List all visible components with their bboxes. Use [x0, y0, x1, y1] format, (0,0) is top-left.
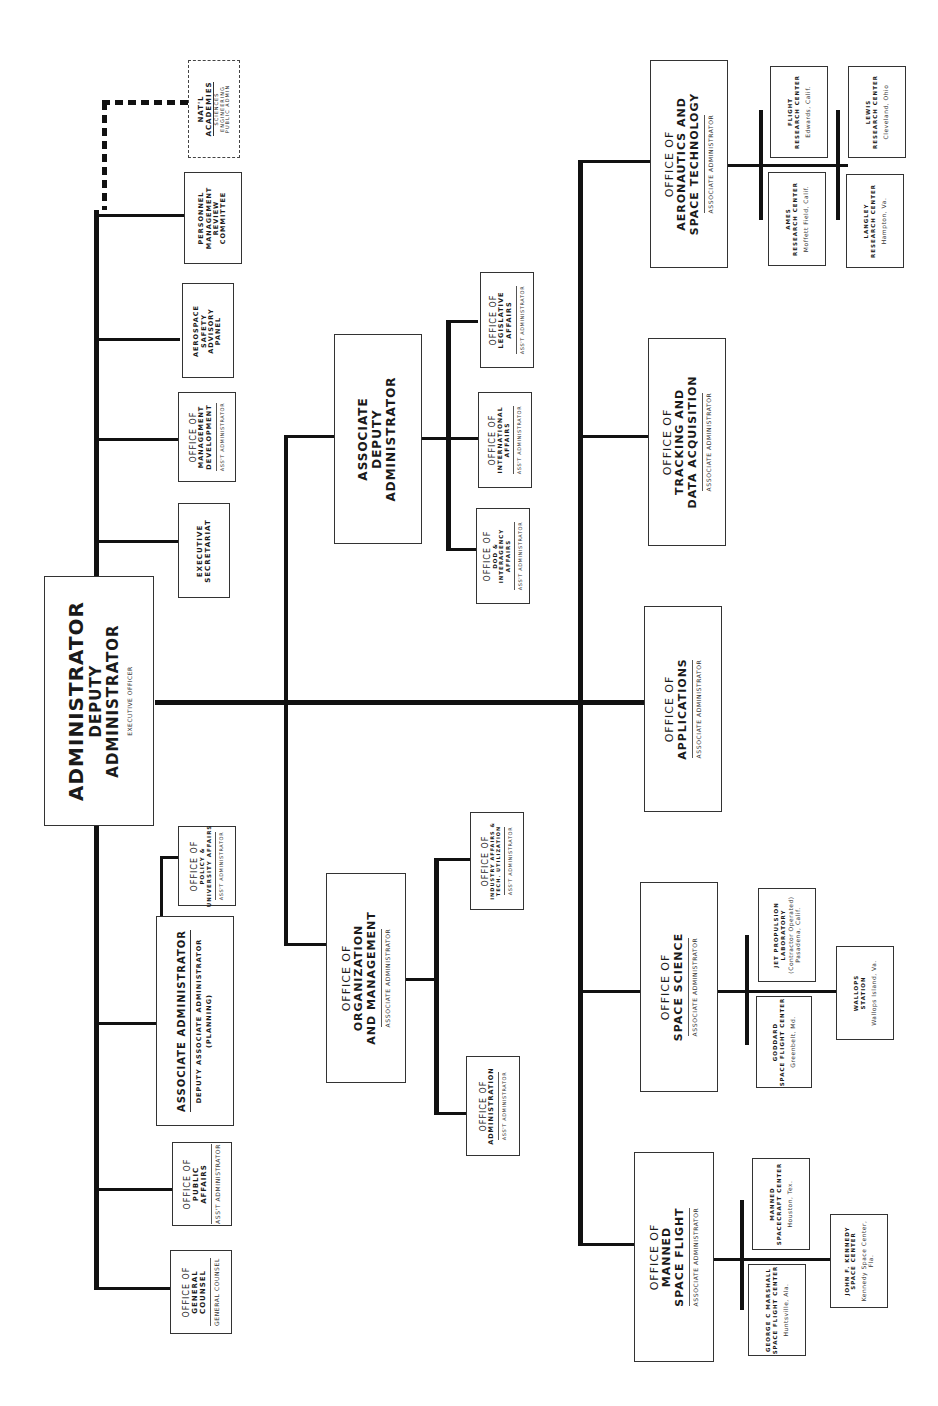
- god-l2: SPACE FLIGHT CENTER: [779, 998, 785, 1087]
- om-l3: AND MANAGEMENT: [366, 911, 379, 1045]
- branch-policy-h: [160, 856, 178, 859]
- node-aerospace-safety[interactable]: AEROSPACE SAFETY ADVISORY PANEL: [182, 283, 234, 378]
- aer-l3: SPACE TECHNOLOGY: [689, 93, 702, 235]
- node-wallops[interactable]: WALLOPS STATION Wallops Island, Va.: [836, 946, 894, 1040]
- node-associate-administrator[interactable]: ASSOCIATE ADMINISTRATOR DEPUTY ASSOCIATE…: [156, 916, 234, 1126]
- pa-l2: PUBLIC: [192, 1167, 200, 1201]
- aa-l2: DEPUTY ASSOCIATE ADMINISTRATOR: [196, 939, 203, 1104]
- node-kennedy[interactable]: JOHN F. KENNEDY SPACE CENTER Kennedy Spa…: [830, 1214, 888, 1308]
- node-administrator[interactable]: ADMINISTRATOR DEPUTY ADMINISTRATOR EXECU…: [44, 576, 154, 826]
- es-l1: EXECUTIVE: [196, 524, 204, 576]
- ken-l2: SPACE CENTER: [850, 1232, 856, 1290]
- om-l2: ORGANIZATION: [353, 925, 366, 1031]
- node-applications[interactable]: OFFICE OF APPLICATIONS ASSOCIATE ADMINIS…: [644, 606, 722, 812]
- node-industry-affairs[interactable]: OFFICE OF INDUSTRY AFFAIRS & TECH. UTILI…: [470, 812, 524, 910]
- aa-l1: ASSOCIATE ADMINISTRATOR: [176, 930, 191, 1112]
- pa-l1: OFFICE OF: [183, 1159, 192, 1210]
- dod-l4: AFFAIRS: [505, 540, 511, 573]
- node-langley[interactable]: LANGLEY RESEARCH CENTER Hampton, Va.: [846, 174, 904, 268]
- frc-l2: RESEARCH CENTER: [794, 75, 800, 149]
- ames-loc: Moffett Field, Calif.: [802, 186, 809, 252]
- org-chart: ADMINISTRATOR DEPUTY ADMINISTRATOR EXECU…: [0, 0, 938, 1406]
- node-space-science[interactable]: OFFICE OF SPACE SCIENCE ASSOCIATE ADMINI…: [640, 882, 718, 1092]
- node-manned-space-flight[interactable]: OFFICE OF MANNED SPACE FLIGHT ASSOCIATE …: [634, 1152, 714, 1362]
- node-general-counsel[interactable]: OFFICE OF GENERAL COUNSEL GENERAL COUNSE…: [170, 1250, 232, 1334]
- msf-sub: ASSOCIATE ADMINISTRATOR: [689, 1208, 699, 1307]
- mar-l2: SPACE FLIGHT CENTER: [772, 1266, 778, 1355]
- app-sub: ASSOCIATE ADMINISTRATOR: [692, 660, 702, 759]
- trk-l2: TRACKING AND: [674, 389, 687, 495]
- lan-l2: RESEARCH CENTER: [870, 184, 876, 258]
- admin-deputy-2: ADMINISTRATOR: [105, 624, 122, 777]
- msc-l2: SPACECRAFT CENTER: [776, 1163, 782, 1246]
- ia-sub: ASS'T ADMINISTRATOR: [513, 406, 522, 474]
- node-aeronautics[interactable]: OFFICE OF AERONAUTICS AND SPACE TECHNOLO…: [650, 60, 728, 268]
- jpl-loc: (Contractor Operated): [787, 896, 794, 973]
- md-l3: DEVELOPMENT: [206, 404, 213, 469]
- gc-l2: GENERAL: [191, 1270, 199, 1313]
- node-marshall[interactable]: GEORGE C MARSHALL SPACE FLIGHT CENTER Hu…: [748, 1264, 806, 1356]
- node-administration[interactable]: OFFICE OF ADMINISTRATION ASS'T ADMINISTR…: [466, 1056, 520, 1156]
- msc-loc: Houston, Tex.: [786, 1181, 793, 1228]
- msf-spine: [740, 1200, 744, 1310]
- ss-l1: OFFICE OF: [660, 954, 673, 1021]
- dod-l1: OFFICE OF: [483, 531, 492, 582]
- ia-l3: AFFAIRS: [504, 423, 511, 458]
- admin-title: ADMINISTRATOR: [65, 601, 88, 801]
- pu-l3: UNIVERSITY AFFAIRS: [206, 825, 212, 908]
- node-lewis[interactable]: LEWIS RESEARCH CENTER Cleveland, Ohio: [848, 66, 906, 158]
- branch-general-counsel: [94, 1287, 170, 1290]
- to-legislative: [446, 320, 478, 323]
- la-sub: ASS'T ADMINISTRATOR: [516, 286, 525, 354]
- node-flight-research[interactable]: FLIGHT RESEARCH CENTER Edwards, Calif.: [770, 66, 828, 158]
- aero-spine-1: [759, 110, 763, 220]
- trk-l3: DATA ACQUISITION: [687, 376, 700, 509]
- ken-loc2: Fla.: [867, 1255, 874, 1268]
- branch-associate-admin: [94, 1022, 156, 1025]
- node-personnel-review[interactable]: PERSONNEL MANAGEMENT REVIEW COMMITTEE: [184, 172, 242, 264]
- branch-aerospace: [94, 338, 180, 341]
- node-public-affairs[interactable]: OFFICE OF PUBLIC AFFAIRS ASS'T ADMINISTR…: [172, 1142, 232, 1226]
- aa-l3: (PLANNING): [206, 994, 213, 1048]
- node-ames[interactable]: AMES RESEARCH CENTER Moffett Field, Cali…: [768, 172, 826, 266]
- gc-l3: COUNSEL: [199, 1270, 207, 1314]
- node-jpl[interactable]: JET PROPULSION LABORATORY (Contractor Op…: [758, 888, 816, 982]
- branch-personnel: [94, 214, 184, 217]
- org-mgmt-out: [405, 978, 437, 981]
- node-policy-university[interactable]: OFFICE OF POLICY & UNIVERSITY AFFAIRS AS…: [178, 826, 236, 906]
- na-l1: NAT'L: [197, 95, 205, 122]
- node-goddard[interactable]: GODDARD SPACE FLIGHT CENTER Greenbelt, M…: [756, 996, 812, 1088]
- ad-l2: DEPUTY: [371, 409, 385, 469]
- lew-loc: Cleveland, Ohio: [882, 85, 889, 140]
- ss-sub: ASSOCIATE ADMINISTRATOR: [688, 938, 698, 1037]
- node-tracking[interactable]: OFFICE OF TRACKING AND DATA ACQUISITION …: [648, 338, 726, 546]
- dod-sub: ASS'T ADMINISTRATOR: [514, 522, 523, 590]
- node-international-affairs[interactable]: OFFICE OF INTERNATIONAL AFFAIRS ASS'T AD…: [478, 392, 532, 488]
- node-executive-secretariat[interactable]: EXECUTIVE SECRETARIAT: [178, 503, 230, 598]
- main-trunk-line: [155, 700, 650, 705]
- wal-l2: STATION: [860, 976, 866, 1009]
- ss-l2: SPACE SCIENCE: [673, 933, 686, 1041]
- org-mgmt-spine: [434, 858, 439, 1115]
- lew-l2: RESEARCH CENTER: [872, 75, 878, 149]
- aero-out: [728, 164, 848, 167]
- node-natl-academies[interactable]: NAT'L ACADEMIES SCIENCES ENGINEERING PUB…: [188, 60, 240, 158]
- to-administration: [434, 1112, 470, 1115]
- node-management-development[interactable]: OFFICE OF MANAGEMENT DEVELOPMENT ASS'T A…: [178, 392, 236, 482]
- to-tracking: [578, 435, 650, 438]
- om-sub: ASSOCIATE ADMINISTRATOR: [381, 929, 391, 1028]
- app-l2: APPLICATIONS: [677, 658, 690, 760]
- node-associate-deputy[interactable]: ASSOCIATE DEPUTY ADMINISTRATOR: [334, 334, 422, 544]
- node-dod-interagency[interactable]: OFFICE OF DOD & INTERAGENCY AFFAIRS ASS'…: [476, 508, 530, 604]
- md-sub: ASS'T ADMINISTRATOR: [216, 403, 225, 471]
- node-organization-management[interactable]: OFFICE OF ORGANIZATION AND MANAGEMENT AS…: [326, 873, 406, 1083]
- wal-loc: Wallops Island, Va.: [870, 960, 877, 1025]
- to-dod: [446, 548, 478, 551]
- ss-spine: [745, 935, 749, 1045]
- ind-l3: TECH. UTILIZATION: [496, 826, 502, 897]
- ames-l2: RESEARCH CENTER: [792, 182, 798, 256]
- god-loc: Greenbelt, Md.: [789, 1016, 796, 1067]
- node-manned-spacecraft[interactable]: MANNED SPACECRAFT CENTER Houston, Tex.: [752, 1158, 810, 1250]
- node-legislative-affairs[interactable]: OFFICE OF LEGISLATIVE AFFAIRS ASS'T ADMI…: [480, 272, 534, 368]
- gc-sub: GENERAL COUNSEL: [210, 1258, 220, 1326]
